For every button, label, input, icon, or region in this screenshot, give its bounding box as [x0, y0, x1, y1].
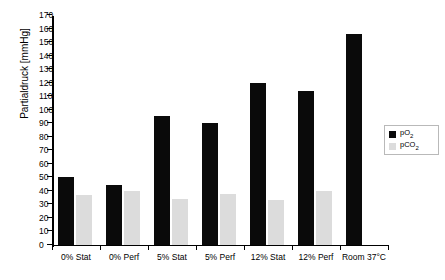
- bar-po2: [202, 123, 218, 245]
- bar-po2: [154, 116, 170, 245]
- y-tick-label: 150: [39, 37, 42, 47]
- y-tick-label: 60: [39, 159, 42, 169]
- y-tick-label: 100: [39, 105, 42, 115]
- x-tick: [148, 246, 149, 250]
- x-tick: [52, 246, 53, 250]
- bar-group: [54, 16, 102, 245]
- y-tick-label: 160: [39, 24, 42, 34]
- bar-po2: [346, 34, 362, 245]
- y-tick-label: 40: [39, 186, 42, 196]
- legend-item-pco2: pCO2: [389, 141, 434, 152]
- bar-group: [198, 16, 246, 245]
- x-category-label: 12% Perf: [299, 252, 334, 262]
- bar-series-container: [54, 16, 388, 245]
- bar-group: [342, 16, 390, 245]
- legend-label-po2: pO2: [400, 128, 413, 141]
- bar-po2: [106, 185, 122, 245]
- bar-pco2: [172, 199, 188, 245]
- y-tick-label: 70: [39, 145, 42, 155]
- legend-label-pco2: pCO2: [400, 140, 419, 153]
- bar-po2: [250, 83, 266, 245]
- y-tick-label: 120: [39, 78, 42, 88]
- bar-po2: [298, 91, 314, 245]
- legend-item-po2: pO2: [389, 129, 434, 140]
- chart-legend: pO2 pCO2: [384, 125, 439, 155]
- y-tick-label: 80: [39, 132, 42, 142]
- bar-pco2: [124, 191, 140, 245]
- x-category-label: 5% Stat: [157, 252, 187, 262]
- bar-pco2: [268, 200, 284, 245]
- x-tick: [388, 246, 389, 250]
- y-tick-label: 130: [39, 64, 42, 74]
- bar-group: [150, 16, 198, 245]
- y-tick-label: 30: [39, 199, 42, 209]
- y-tick-label: 50: [39, 172, 42, 182]
- x-tick: [196, 246, 197, 250]
- bar-pco2: [220, 194, 236, 245]
- x-tick: [100, 246, 101, 250]
- x-category-label: 5% Perf: [205, 252, 235, 262]
- y-tick-label: 0: [39, 240, 42, 250]
- legend-swatch-po2-icon: [389, 131, 396, 138]
- x-category-label: Room 37°C: [342, 252, 386, 262]
- y-tick-label: 90: [39, 118, 42, 128]
- y-tick-label: 110: [39, 91, 42, 101]
- x-tick: [292, 246, 293, 250]
- x-category-label: 0% Perf: [109, 252, 139, 262]
- x-axis-category-labels: 0% Stat0% Perf5% Stat5% Perf12% Stat12% …: [52, 252, 388, 268]
- y-tick: [47, 244, 52, 245]
- y-tick-label: 170: [39, 10, 42, 20]
- y-tick-label: 140: [39, 51, 42, 61]
- bar-po2: [58, 177, 74, 245]
- y-axis-title: Partialdruck [mmHg]: [19, 0, 30, 154]
- x-category-label: 12% Stat: [251, 252, 286, 262]
- x-category-label: 0% Stat: [61, 252, 91, 262]
- bar-pco2: [76, 195, 92, 245]
- plot-area: 0102030405060708090100110120130140150160…: [52, 16, 388, 246]
- bar-group: [246, 16, 294, 245]
- y-tick-label: 20: [39, 213, 42, 223]
- bar-group: [102, 16, 150, 245]
- bar-pco2: [316, 191, 332, 245]
- legend-swatch-pco2-icon: [389, 143, 396, 150]
- bar-chart: Partialdruck [mmHg] 01020304050607080901…: [0, 0, 445, 280]
- x-tick: [340, 246, 341, 250]
- x-tick: [244, 246, 245, 250]
- bar-group: [294, 16, 342, 245]
- y-tick-label: 10: [39, 226, 42, 236]
